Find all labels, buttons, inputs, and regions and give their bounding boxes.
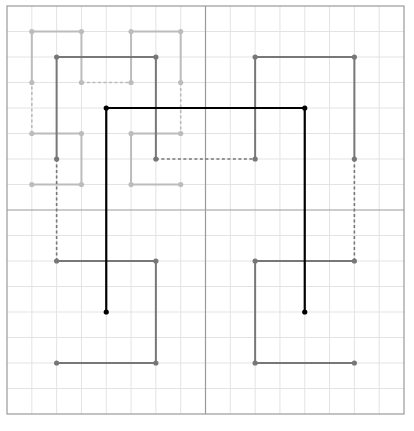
curve-vertex [29, 80, 34, 85]
curve-vertex [104, 309, 109, 314]
curve-vertex [128, 80, 133, 85]
curve-vertex [352, 54, 357, 59]
curve-vertex [54, 258, 59, 263]
curve-vertex [29, 131, 34, 136]
curve-vertex [302, 105, 307, 110]
curve-vertex [253, 360, 258, 365]
hilbert-curve-diagram [0, 0, 414, 431]
curve-vertex [178, 80, 183, 85]
curve-vertex [302, 309, 307, 314]
curve-vertex [352, 360, 357, 365]
curve-vertex [153, 156, 158, 161]
curve-vertex [54, 54, 59, 59]
curve-vertex [29, 182, 34, 187]
curves [29, 29, 357, 366]
grid [7, 6, 404, 414]
curve-vertex [54, 156, 59, 161]
curve-vertex [79, 29, 84, 34]
curve-vertex [79, 80, 84, 85]
curve-vertex [153, 258, 158, 263]
curve-vertex [253, 258, 258, 263]
curve-vertex [153, 360, 158, 365]
curve-vertex [104, 105, 109, 110]
curve-vertex [153, 54, 158, 59]
curve-vertex [253, 54, 258, 59]
curve-vertex [29, 29, 34, 34]
curve-vertex [54, 360, 59, 365]
curve-vertex [352, 258, 357, 263]
curve-vertex [128, 131, 133, 136]
curve-vertex [178, 131, 183, 136]
curve-vertex [352, 156, 357, 161]
curve-vertex [178, 182, 183, 187]
curve-vertex [128, 29, 133, 34]
curve-vertex [79, 182, 84, 187]
curve-vertex [178, 29, 183, 34]
curve-vertex [79, 131, 84, 136]
curve-vertex [128, 182, 133, 187]
curve-vertex [253, 156, 258, 161]
